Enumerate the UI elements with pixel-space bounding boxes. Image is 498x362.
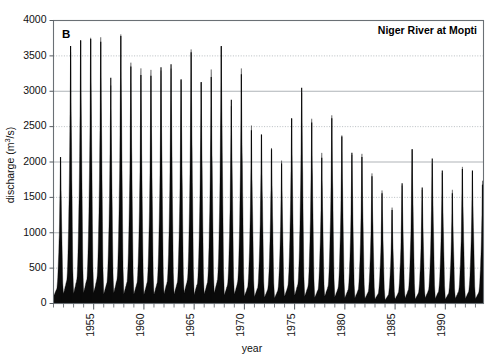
chart-canvas: 0500100015002000250030003500400019551960… <box>0 0 498 362</box>
y-tick-label: 1000 <box>23 226 47 238</box>
y-tick-label: 4000 <box>23 13 47 25</box>
x-tick-label: 1965 <box>184 313 196 337</box>
y-tick-label: 2500 <box>23 119 47 131</box>
y-tick-label: 1500 <box>23 190 47 202</box>
hydrograph-figure: 0500100015002000250030003500400019551960… <box>0 0 498 362</box>
discharge-area <box>54 34 484 303</box>
y-tick-label: 3500 <box>23 49 47 61</box>
y-tick-label: 3000 <box>23 84 47 96</box>
y-tick-label: 2000 <box>23 155 47 167</box>
y-tick-label: 500 <box>29 261 47 273</box>
discharge-series <box>54 34 484 303</box>
y-tick-label: 0 <box>41 296 47 308</box>
x-tick-label: 1975 <box>285 313 297 337</box>
x-tick-label: 1955 <box>84 313 96 337</box>
x-tick-label: 1970 <box>234 313 246 337</box>
panel-label: B <box>62 28 70 40</box>
grid-layer <box>54 21 484 269</box>
x-tick-label: 1980 <box>335 313 347 337</box>
x-tick-label: 1985 <box>385 313 397 337</box>
x-tick-label: 1960 <box>134 313 146 337</box>
x-tick-label: 1990 <box>435 313 447 337</box>
plot-title: Niger River at Mopti <box>378 24 477 36</box>
x-axis-title: year <box>242 342 263 354</box>
y-axis-title: discharge (m3/s) <box>3 127 17 204</box>
